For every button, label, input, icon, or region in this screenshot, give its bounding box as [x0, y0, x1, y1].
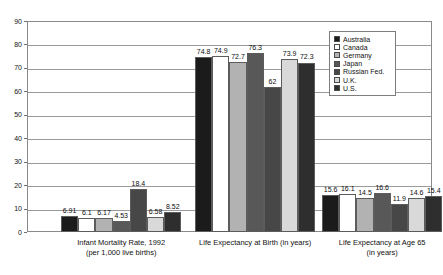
legend-swatch-icon: [334, 77, 340, 83]
legend-item-label: Japan: [343, 60, 362, 67]
bar: [95, 218, 112, 232]
y-axis-tick: [24, 232, 27, 233]
legend-item: Russian Fed.: [334, 68, 392, 76]
bar-value-label: 76.3: [244, 44, 267, 51]
group-caption-line2: (in years): [292, 248, 443, 258]
legend-item-label: Canada: [343, 44, 368, 51]
bar-value-label: 72.3: [295, 53, 318, 60]
legend-item: Japan: [334, 60, 392, 68]
y-axis-tick-label: 20: [0, 182, 22, 189]
bar: [195, 57, 212, 232]
bar: [339, 194, 356, 232]
legend-swatch-icon: [334, 52, 340, 58]
bar-value-label: 15.4: [422, 187, 443, 194]
bar: [281, 59, 298, 232]
bar: [78, 218, 95, 232]
legend-item-label: U.S.: [343, 85, 357, 92]
legend-item: U.K.: [334, 76, 392, 84]
legend-item: Canada: [334, 43, 392, 51]
bar: [212, 56, 229, 232]
legend-swatch-icon: [334, 36, 340, 42]
y-axis-tick-label: 50: [0, 111, 22, 118]
y-axis-tick-label: 70: [0, 64, 22, 71]
bar: [425, 196, 442, 232]
bar-chart: 0102030405060708090 6.916.16.174.5318.46…: [0, 0, 443, 275]
bar: [298, 63, 315, 233]
bar: [408, 198, 425, 232]
bar: [113, 221, 130, 232]
legend-item: U.S.: [334, 84, 392, 92]
bar-value-label: 16.6: [371, 184, 394, 191]
legend-item: Australia: [334, 35, 392, 43]
legend-item-label: Russian Fed.: [343, 68, 384, 75]
group-caption: Life Expectancy at Age 65(in years): [292, 238, 443, 258]
bar: [61, 216, 78, 232]
legend-swatch-icon: [334, 85, 340, 91]
y-axis-tick-label: 80: [0, 41, 22, 48]
bar: [322, 195, 339, 232]
bar: [264, 87, 281, 232]
y-axis-tick-label: 0: [0, 229, 22, 236]
legend-item: Germany: [334, 51, 392, 59]
y-axis-tick-label: 30: [0, 158, 22, 165]
legend-swatch-icon: [334, 44, 340, 50]
y-axis-tick-label: 10: [0, 205, 22, 212]
bar: [391, 204, 408, 232]
y-axis-tick-label: 60: [0, 88, 22, 95]
bar-value-label: 18.4: [127, 180, 150, 187]
group-caption-line1: Life Expectancy at Age 65: [292, 238, 443, 248]
bar: [229, 62, 246, 232]
y-axis-tick-label: 40: [0, 135, 22, 142]
legend-item-label: U.K.: [343, 77, 357, 84]
legend-item-label: Australia: [343, 36, 370, 43]
legend-item-label: Germany: [343, 52, 372, 59]
bar: [164, 212, 181, 232]
legend-swatch-icon: [334, 61, 340, 67]
chart-legend: AustraliaCanadaGermanyJapanRussian Fed.U…: [329, 31, 396, 96]
group-caption-line2: (per 1,000 live births): [31, 248, 211, 258]
legend-swatch-icon: [334, 69, 340, 75]
bar-value-label: 8.52: [161, 203, 184, 210]
bar: [356, 198, 373, 232]
y-axis-tick-label: 90: [0, 18, 22, 25]
bar: [147, 217, 164, 232]
